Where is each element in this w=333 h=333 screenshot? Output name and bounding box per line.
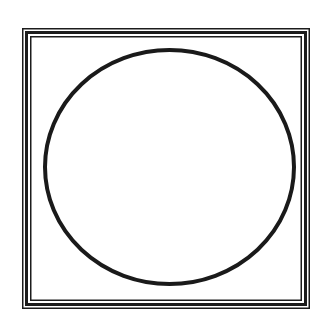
frame-inner-line (31, 37, 302, 301)
frame-outer-line (23, 29, 310, 309)
frame-middle-line (27, 33, 306, 305)
figure-canvas (0, 0, 333, 333)
circle-shape (45, 50, 294, 284)
triple-line-frame (23, 29, 310, 309)
